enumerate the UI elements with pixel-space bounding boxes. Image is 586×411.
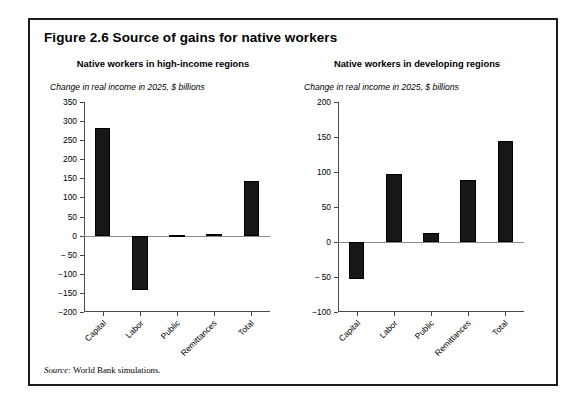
x-axis-tick <box>140 312 141 316</box>
y-axis-line <box>84 102 85 312</box>
y-axis-tick-label: − 50 <box>43 250 77 260</box>
y-axis-tick <box>334 172 338 173</box>
y-axis-line <box>338 102 339 312</box>
y-axis-tick-label: 150 <box>43 173 77 183</box>
bar-total <box>498 141 514 242</box>
bar-labor <box>132 236 148 291</box>
y-axis-tick <box>80 293 84 294</box>
plot-area-developing: 200150100500− 50−100CapitalLaborPublicRe… <box>338 102 524 312</box>
x-axis-label-capital: Capital <box>82 318 108 344</box>
x-axis-tick <box>505 312 506 316</box>
x-axis-tick <box>394 312 395 316</box>
source-label: Source: <box>44 365 71 375</box>
chart-title-developing: Native workers in developing regions <box>292 58 542 69</box>
y-axis-tick <box>334 277 338 278</box>
x-axis-tick <box>177 312 178 316</box>
y-axis-tick-label: 150 <box>297 132 331 142</box>
x-axis-label-public: Public <box>159 318 182 341</box>
bar-capital <box>95 128 111 236</box>
x-axis-tick <box>357 312 358 316</box>
y-axis-tick-label: 50 <box>297 202 331 212</box>
bar-total <box>244 181 260 235</box>
y-axis-tick <box>80 102 84 103</box>
source-note: Source: World Bank simulations. <box>44 365 161 375</box>
y-axis-tick <box>334 207 338 208</box>
y-axis-tick <box>334 312 338 313</box>
y-axis-tick-label: −100 <box>43 269 77 279</box>
figure-container: Figure 2.6 Source of gains for native wo… <box>28 18 558 386</box>
y-axis-tick-label: − 50 <box>297 272 331 282</box>
y-axis-tick-label: −150 <box>43 288 77 298</box>
x-axis-label-remittances: Remittances <box>433 318 473 358</box>
bar-capital <box>349 242 365 279</box>
figure-page: Figure 2.6 Source of gains for native wo… <box>0 0 586 411</box>
y-axis-tick-label: 300 <box>43 116 77 126</box>
y-axis-tick <box>334 137 338 138</box>
y-axis-caption-developing: Change in real income in 2025, $ billion… <box>304 82 459 92</box>
y-axis-tick-label: −100 <box>297 307 331 317</box>
x-axis-label-labor: Labor <box>123 318 145 340</box>
y-axis-tick <box>80 178 84 179</box>
source-text: World Bank simulations. <box>71 365 161 375</box>
y-axis-caption-high-income: Change in real income in 2025, $ billion… <box>50 82 205 92</box>
y-axis-tick <box>80 197 84 198</box>
bar-remittances <box>206 234 222 236</box>
y-axis-tick-label: 50 <box>43 212 77 222</box>
y-axis-tick <box>80 274 84 275</box>
y-axis-tick-label: 100 <box>297 167 331 177</box>
x-axis-label-total: Total <box>237 318 257 338</box>
x-axis-tick <box>431 312 432 316</box>
x-axis-label-public: Public <box>413 318 436 341</box>
x-axis-tick <box>251 312 252 316</box>
y-axis-tick-label: −200 <box>43 307 77 317</box>
x-axis-label-capital: Capital <box>336 318 362 344</box>
x-axis-tick <box>214 312 215 316</box>
plot-area-high-income: 350300250200150100500− 50−100−150−200Cap… <box>84 102 270 312</box>
y-axis-tick-label: 350 <box>43 97 77 107</box>
y-axis-tick-label: 100 <box>43 192 77 202</box>
x-axis-label-remittances: Remittances <box>179 318 219 358</box>
chart-panel-high-income: Native workers in high-income regions Ch… <box>38 58 288 358</box>
bar-labor <box>386 174 402 242</box>
y-axis-tick <box>80 255 84 256</box>
chart-title-high-income: Native workers in high-income regions <box>38 58 288 69</box>
y-axis-tick-label: 200 <box>297 97 331 107</box>
y-axis-tick <box>80 159 84 160</box>
figure-title: Figure 2.6 Source of gains for native wo… <box>44 30 337 45</box>
zero-baseline <box>338 242 524 243</box>
y-axis-tick-label: 0 <box>43 231 77 241</box>
bar-public <box>423 233 439 242</box>
bar-remittances <box>460 180 476 242</box>
y-axis-tick <box>80 121 84 122</box>
y-axis-tick <box>80 140 84 141</box>
y-axis-tick-label: 250 <box>43 135 77 145</box>
y-axis-tick-label: 200 <box>43 154 77 164</box>
y-axis-tick <box>80 217 84 218</box>
x-axis-tick <box>468 312 469 316</box>
x-axis-label-total: Total <box>491 318 511 338</box>
y-axis-tick <box>334 102 338 103</box>
x-axis-tick <box>103 312 104 316</box>
x-axis-label-labor: Labor <box>377 318 399 340</box>
chart-panel-developing: Native workers in developing regions Cha… <box>292 58 542 358</box>
y-axis-tick <box>80 312 84 313</box>
y-axis-tick-label: 0 <box>297 237 331 247</box>
bar-public <box>169 235 185 237</box>
